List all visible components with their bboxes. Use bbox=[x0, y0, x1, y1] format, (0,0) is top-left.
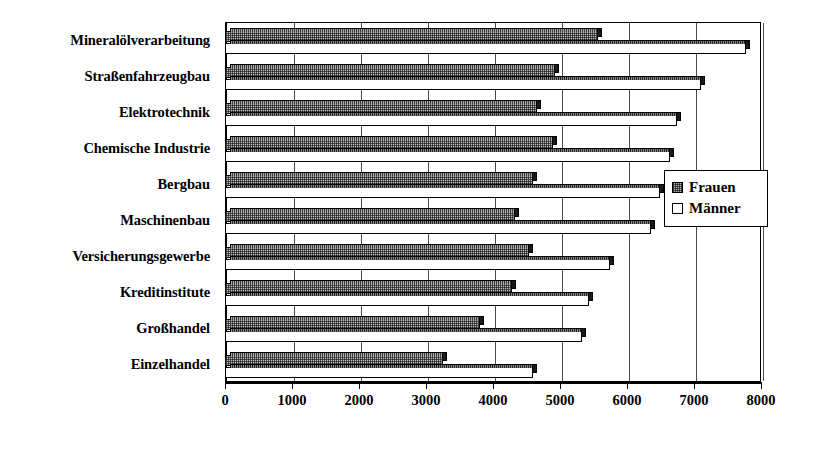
bar-maenner bbox=[225, 43, 746, 54]
bar-maenner bbox=[225, 79, 701, 90]
category-label: Großhandel bbox=[136, 320, 210, 337]
x-tick-label: 3000 bbox=[412, 392, 441, 409]
x-tick-label: 2000 bbox=[345, 392, 374, 409]
legend-swatch-frauen bbox=[672, 182, 683, 193]
bar-top-face bbox=[230, 328, 585, 332]
bar-top-face bbox=[230, 148, 673, 152]
bar-side-face bbox=[597, 28, 602, 37]
bar-side-face bbox=[532, 364, 537, 373]
category-label: Elektrotechnik bbox=[119, 104, 210, 121]
bar-top-face bbox=[230, 208, 518, 212]
x-tick-label: 7000 bbox=[680, 392, 709, 409]
legend-label-maenner: Männer bbox=[689, 200, 741, 217]
bar-maenner bbox=[225, 259, 610, 270]
bar-maenner bbox=[225, 115, 677, 126]
bar-side-face bbox=[609, 256, 614, 265]
category-label: Maschinenbau bbox=[120, 212, 210, 229]
category-label: Kreditinstitute bbox=[120, 284, 210, 301]
bar-side-face bbox=[511, 280, 516, 289]
bar-maenner bbox=[225, 151, 670, 162]
bar-top-face bbox=[230, 112, 680, 116]
category-label: Bergbau bbox=[158, 176, 210, 193]
bar-side-face bbox=[528, 244, 533, 253]
bar-top-face bbox=[230, 172, 536, 176]
bar-maenner bbox=[225, 187, 660, 198]
bar-side-face bbox=[442, 352, 447, 361]
bar-side-face bbox=[700, 76, 705, 85]
x-tick bbox=[694, 382, 695, 389]
bar-top-face bbox=[230, 352, 446, 356]
category-axis-labels: MineralölverarbeitungStraßenfahrzeugbauE… bbox=[0, 22, 218, 382]
x-tick bbox=[761, 382, 762, 389]
bar-side-face bbox=[588, 292, 593, 301]
x-tick-label: 5000 bbox=[546, 392, 575, 409]
bar-top-face bbox=[230, 40, 749, 44]
x-tick bbox=[426, 382, 427, 389]
bar-side-face bbox=[650, 220, 655, 229]
bar-side-face bbox=[676, 112, 681, 121]
bar-side-face bbox=[554, 64, 559, 73]
bar-side-face bbox=[745, 40, 750, 49]
bar-top-face bbox=[230, 244, 532, 248]
x-tick bbox=[292, 382, 293, 389]
x-tick bbox=[493, 382, 494, 389]
category-label: Mineralölverarbeitung bbox=[70, 32, 210, 49]
legend-label-frauen: Frauen bbox=[689, 179, 736, 196]
bar-maenner bbox=[225, 367, 533, 378]
x-tick-label: 4000 bbox=[479, 392, 508, 409]
category-label: Versicherungsgewerbe bbox=[72, 248, 210, 265]
x-tick-label: 6000 bbox=[613, 392, 642, 409]
bar-maenner bbox=[225, 331, 582, 342]
legend-swatch-maenner bbox=[672, 203, 683, 214]
x-tick-label: 1000 bbox=[278, 392, 307, 409]
bar-top-face bbox=[230, 100, 540, 104]
bar-top-face bbox=[230, 64, 558, 68]
x-tick bbox=[359, 382, 360, 389]
bar-side-face bbox=[552, 136, 557, 145]
x-tick-label: 0 bbox=[221, 392, 228, 409]
x-tick-label: 8000 bbox=[747, 392, 776, 409]
category-label: Chemische Industrie bbox=[83, 140, 210, 157]
bar-side-face bbox=[479, 316, 484, 325]
bar-side-face bbox=[669, 148, 674, 157]
bar-side-face bbox=[514, 208, 519, 217]
bar-top-face bbox=[230, 292, 592, 296]
legend: Frauen Männer bbox=[664, 170, 768, 227]
bar-top-face bbox=[230, 136, 556, 140]
bar-top-face bbox=[230, 184, 663, 188]
legend-item-maenner: Männer bbox=[672, 198, 760, 219]
bar-chart: MineralölverarbeitungStraßenfahrzeugbauE… bbox=[0, 0, 827, 454]
legend-item-frauen: Frauen bbox=[672, 177, 760, 198]
category-label: Einzelhandel bbox=[131, 356, 210, 373]
bar-top-face bbox=[230, 28, 601, 32]
bar-maenner bbox=[225, 223, 651, 234]
bar-top-face bbox=[230, 280, 515, 284]
category-label: Straßenfahrzeugbau bbox=[85, 68, 211, 85]
bar-top-face bbox=[230, 364, 536, 368]
x-tick bbox=[225, 382, 226, 389]
x-tick bbox=[627, 382, 628, 389]
bar-side-face bbox=[536, 100, 541, 109]
bar-side-face bbox=[532, 172, 537, 181]
x-tick bbox=[560, 382, 561, 389]
bar-top-face bbox=[230, 76, 704, 80]
bar-top-face bbox=[230, 220, 654, 224]
bar-top-face bbox=[230, 256, 613, 260]
bar-side-face bbox=[581, 328, 586, 337]
bar-top-face bbox=[230, 316, 483, 320]
bar-maenner bbox=[225, 295, 589, 306]
